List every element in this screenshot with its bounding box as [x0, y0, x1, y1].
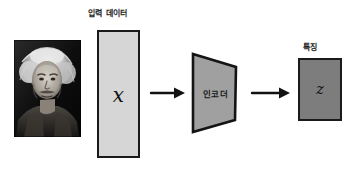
einstein-portrait-graphic — [14, 40, 81, 137]
feature-label: 특징 — [303, 44, 318, 52]
input-data-rectangle: x — [97, 30, 140, 158]
diagram-canvas: 입력 데이터 x 인코더 특징 z — [0, 0, 354, 172]
arrow-to-encoder — [150, 83, 186, 103]
einstein-portrait-image — [14, 40, 81, 137]
arrow-right-icon — [251, 83, 291, 103]
encoder-label: 인코더 — [190, 52, 240, 134]
latent-symbol-z: z — [316, 82, 324, 97]
arrow-right-icon — [150, 83, 186, 103]
arrow-to-feature — [251, 83, 291, 103]
input-symbol-x: x — [113, 85, 124, 105]
feature-vector-box: z — [298, 58, 342, 121]
input-data-label: 입력 데이터 — [88, 10, 128, 18]
encoder-shape: 인코더 — [190, 52, 240, 134]
